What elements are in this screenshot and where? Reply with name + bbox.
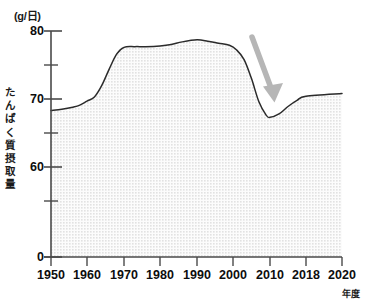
decline-arrow (252, 37, 283, 103)
plot-area (0, 0, 366, 302)
protein-intake-chart: (g/日) た ん ぱ く 質 摂 取 量 80 70 60 0 1950 19… (0, 0, 366, 302)
area-fill (51, 40, 342, 257)
